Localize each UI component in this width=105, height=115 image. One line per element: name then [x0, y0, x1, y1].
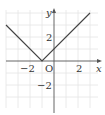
x-axis-label: x	[96, 63, 102, 74]
graph: y x O −2 2 2 −2	[0, 0, 105, 115]
tick-y-neg2: −2	[37, 80, 52, 91]
y-axis-label: y	[45, 7, 52, 18]
tick-x-neg2: −2	[20, 63, 35, 74]
tick-y-2: 2	[46, 32, 52, 43]
axes	[6, 10, 100, 113]
y-axis-arrow-icon	[52, 8, 56, 13]
grid	[6, 10, 98, 108]
origin-label: O	[45, 63, 53, 74]
tick-x-2: 2	[76, 63, 82, 74]
